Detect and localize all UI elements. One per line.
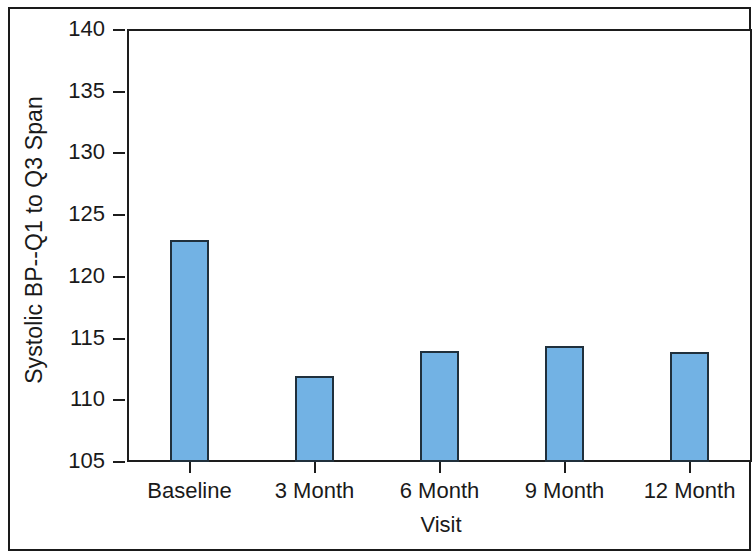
x-axis-tick-mark <box>564 462 566 473</box>
x-axis-title-text: Visit <box>420 512 461 538</box>
y-axis-tick-label: 125 <box>68 201 105 227</box>
x-axis-tick-label: Baseline <box>147 478 231 504</box>
y-axis-tick-mark <box>113 461 125 463</box>
bar <box>295 376 334 462</box>
y-axis-tick-label: 135 <box>68 78 105 104</box>
bar-chart: Systolic BP--Q1 to Q3 Span 1051101151201… <box>0 0 756 560</box>
y-axis-tick-mark <box>113 338 125 340</box>
y-axis-tick-mark <box>113 214 125 216</box>
y-axis-title: Systolic BP--Q1 to Q3 Span <box>17 10 51 470</box>
x-axis-tick-label: 6 Month <box>400 478 480 504</box>
y-axis-tick-label: 110 <box>70 386 105 412</box>
y-axis-tick-mark <box>113 152 125 154</box>
x-axis-tick-label: 9 Month <box>525 478 605 504</box>
x-axis-tick-label: 12 Month <box>644 478 736 504</box>
y-axis-tick-mark <box>113 91 125 93</box>
x-axis-tick-mark <box>314 462 316 473</box>
x-axis-title: Visit <box>0 512 756 538</box>
bar <box>170 240 209 462</box>
x-axis-tick-label: 3 Month <box>275 478 355 504</box>
y-axis-tick-mark <box>113 29 125 31</box>
y-axis-tick-label: 105 <box>68 448 105 474</box>
y-axis-tick-label: 130 <box>68 139 105 165</box>
x-axis-tick-mark <box>689 462 691 473</box>
x-axis-tick-mark <box>189 462 191 473</box>
bar <box>670 352 709 462</box>
bar <box>420 351 459 462</box>
y-axis-tick-label: 140 <box>68 16 105 42</box>
y-axis-tick-mark <box>113 276 125 278</box>
y-axis-tick-mark <box>113 399 125 401</box>
x-axis-tick-mark <box>439 462 441 473</box>
y-axis-tick-label: 115 <box>70 325 105 351</box>
bar <box>545 346 584 462</box>
y-axis-tick-label: 120 <box>68 263 105 289</box>
